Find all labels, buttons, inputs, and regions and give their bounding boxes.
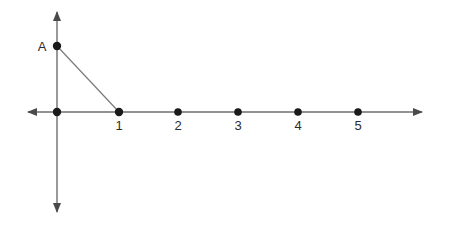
point-5 [354, 108, 362, 116]
point-a [53, 42, 61, 50]
point-3 [234, 108, 242, 116]
figure-canvas: 1 2 3 4 5 A [0, 0, 450, 225]
tick-label-5: 5 [354, 118, 361, 133]
tick-label-4: 4 [294, 118, 301, 133]
y-axis-top-arrowhead [53, 11, 61, 21]
tick-label-3: 3 [234, 118, 241, 133]
point-2 [174, 108, 182, 116]
coordinate-diagram: 1 2 3 4 5 A [0, 0, 450, 225]
point-4 [294, 108, 302, 116]
tick-label-1: 1 [115, 118, 122, 133]
point-1 [115, 108, 123, 116]
point-origin [53, 108, 61, 116]
segment-a-to-one [57, 46, 119, 112]
point-a-label: A [38, 39, 47, 54]
y-axis-bottom-arrowhead [53, 203, 61, 213]
x-axis-left-arrowhead [27, 108, 37, 116]
tick-label-2: 2 [174, 118, 181, 133]
x-axis-right-arrowhead [413, 108, 423, 116]
